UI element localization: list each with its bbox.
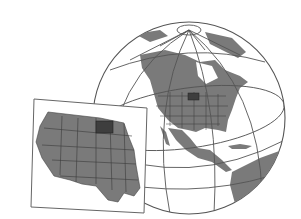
north-dakota-highlight bbox=[96, 121, 113, 133]
globe-and-inset-map bbox=[0, 0, 301, 219]
globe-illustration bbox=[0, 0, 301, 219]
inset-map bbox=[31, 99, 147, 213]
